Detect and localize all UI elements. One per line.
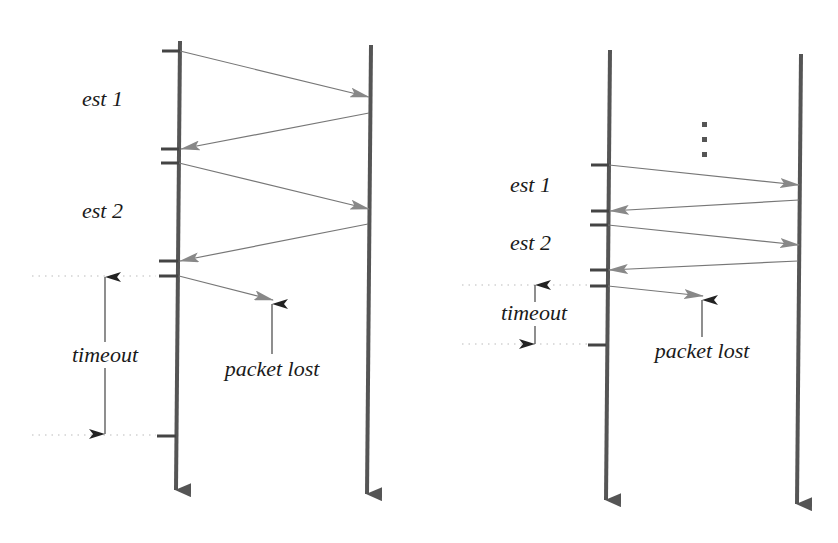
lost-message-arrow (179, 276, 273, 300)
rtt-timeout-diagram: est 1 est 2 timeout packet lost (0, 0, 838, 543)
messages (608, 165, 799, 296)
ellipsis-icon (702, 122, 707, 157)
messages (179, 51, 369, 300)
est-1-label: est 1 (510, 172, 551, 197)
message-arrow (608, 225, 799, 245)
sender-timeline (606, 50, 610, 500)
sender-timeline (176, 41, 180, 490)
left-diagram: est 1 est 2 timeout packet lost (32, 41, 371, 494)
ack-arrow (609, 261, 798, 270)
right-diagram: est 1 est 2 timeout packet lost (462, 50, 801, 504)
est-1-label: est 1 (82, 86, 123, 111)
packet-lost-label: packet lost (653, 338, 751, 363)
ack-arrow (610, 200, 799, 211)
est-2-label: est 2 (82, 198, 123, 223)
lost-message-arrow (608, 286, 703, 296)
timeout-label: timeout (501, 300, 568, 325)
timeout-label: timeout (72, 342, 139, 367)
receiver-timeline (797, 54, 801, 504)
message-arrow (179, 163, 369, 209)
ack-arrow (181, 113, 369, 149)
message-arrow (180, 51, 369, 97)
message-arrow (609, 165, 799, 185)
ack-arrow (180, 224, 368, 261)
receiver-timeline (367, 45, 371, 494)
est-2-label: est 2 (510, 230, 551, 255)
packet-lost-label: packet lost (223, 356, 321, 381)
